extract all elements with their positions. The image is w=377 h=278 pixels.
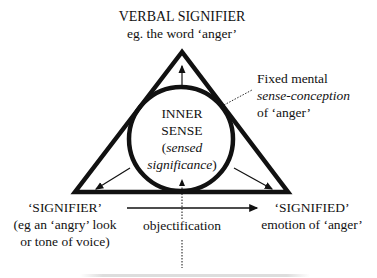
annotation-leader-line	[224, 90, 252, 105]
verbal-signifier-subtitle: eg. the word ‘anger’	[112, 26, 252, 42]
paren-close: )	[212, 157, 217, 172]
inner-sense-line-1: INNER	[140, 106, 224, 122]
annotation-line-3: of ‘anger’	[257, 105, 311, 121]
signifier-line-2: (eg an ‘angry’ look	[0, 217, 130, 233]
signifier-title: ‘SIGNIFIER’	[0, 200, 130, 216]
sensed-text: sensed	[166, 140, 202, 155]
objectification-label: objectification	[135, 218, 229, 234]
inner-sense-line-4: significance)	[125, 157, 239, 173]
signifier-line-3: or tone of voice)	[0, 234, 130, 250]
annotation-line-2: sense-conception	[257, 88, 350, 104]
arrow-to-signified	[234, 168, 272, 189]
significance-text: significance	[147, 157, 212, 172]
inner-sense-line-3: (sensed	[130, 140, 234, 156]
annotation-line-1: Fixed mental	[257, 71, 328, 87]
inner-sense-line-2: SENSE	[140, 123, 224, 139]
inner-sense-circle	[129, 87, 233, 191]
signified-title: ‘SIGNIFIED’	[250, 200, 374, 216]
verbal-signifier-title: VERBAL SIGNIFIER	[112, 9, 252, 25]
clipped-caption-strip	[80, 268, 310, 278]
signified-line-2: emotion of ‘anger’	[250, 217, 374, 233]
